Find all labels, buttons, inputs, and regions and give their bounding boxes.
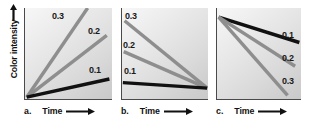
right-arrow-icon bbox=[66, 107, 96, 116]
right-arrow-icon bbox=[258, 107, 288, 116]
panel-b-lines bbox=[122, 8, 208, 99]
panel-b-x-caption: b. Time bbox=[121, 102, 208, 120]
panel-c: 0.1 0.2 0.3 bbox=[216, 8, 301, 100]
panel-a-plot-area bbox=[24, 8, 112, 100]
panel-c-lines bbox=[217, 8, 301, 99]
panel-a-xlabel: Time bbox=[42, 106, 62, 116]
panel-b-plot-area bbox=[121, 8, 208, 100]
panel-c-letter: c. bbox=[216, 106, 223, 116]
panel-a-x-caption: a. Time bbox=[24, 102, 112, 120]
y-axis-label: Color intensity bbox=[9, 10, 19, 88]
right-arrow-icon bbox=[164, 107, 194, 116]
panel-a-letter: a. bbox=[24, 106, 31, 116]
panel-b: 0.3 0.2 0.1 bbox=[121, 8, 208, 100]
panel-b-letter: b. bbox=[121, 106, 129, 116]
panel-c-x-caption: c. Time bbox=[216, 102, 301, 120]
line-a-03 bbox=[27, 8, 88, 97]
figure-container: Color intensity 0.3 0.2 0.1 a. Time bbox=[0, 0, 311, 122]
panel-a-lines bbox=[25, 8, 112, 99]
panel-c-xlabel: Time bbox=[234, 106, 254, 116]
line-b-03 bbox=[125, 21, 208, 88]
panel-c-plot-area bbox=[216, 8, 301, 100]
panel-b-xlabel: Time bbox=[140, 106, 160, 116]
panel-a: 0.3 0.2 0.1 bbox=[24, 8, 112, 100]
y-axis: Color intensity bbox=[2, 0, 24, 104]
